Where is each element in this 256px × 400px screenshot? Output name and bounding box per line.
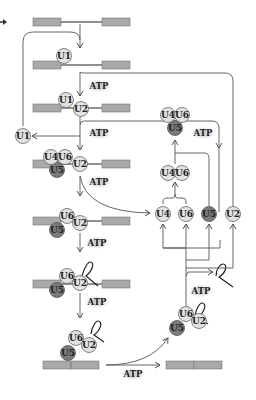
u6-snrnp: U6 (179, 207, 194, 222)
svg-text:U6: U6 (60, 211, 74, 221)
u2-snrnp: U2 (73, 216, 88, 231)
svg-text:U4: U4 (161, 110, 175, 120)
b-complex: U5 U4 U6 U2 (33, 150, 130, 178)
free-snrnps: U4 U6 U5 U2 (156, 207, 241, 222)
svg-text:U6: U6 (58, 152, 72, 162)
svg-text:U5: U5 (61, 348, 75, 358)
svg-text:U5: U5 (50, 165, 64, 175)
svg-text:ATP: ATP (123, 369, 143, 379)
svg-text:ATP: ATP (193, 128, 213, 138)
svg-text:U5: U5 (168, 123, 182, 133)
u2-snrnp: U2 (73, 157, 88, 172)
e-complex: U1 (33, 49, 130, 70)
a-complex: U1 U2 (33, 93, 130, 117)
u1-released: U1 (16, 129, 31, 144)
u5-snrnp: U5 (50, 283, 65, 298)
svg-text:ATP: ATP (191, 286, 211, 296)
u1-snrnp: U1 (59, 93, 74, 108)
released-complex: U5 U6 U2 (170, 303, 209, 336)
u4-snrnp: U4 (161, 108, 176, 123)
u5-snrnp: U5 (170, 321, 185, 336)
atp-1: ATP (85, 79, 113, 93)
u2-snrnp: U2 (82, 338, 97, 353)
svg-text:U2: U2 (192, 316, 206, 326)
svg-text:U2: U2 (226, 209, 240, 219)
atp-7: ATP (187, 284, 215, 298)
svg-text:U5: U5 (170, 323, 184, 333)
u5-snrnp: U5 (168, 121, 183, 136)
pre-mrna (33, 18, 130, 26)
free-lariat-intron (216, 264, 233, 287)
u6-snrnp: U6 (175, 108, 190, 123)
c-complex: U5 U6 U2 (33, 262, 130, 298)
svg-text:ATP: ATP (87, 297, 107, 307)
u4-snrnp: U4 (44, 150, 59, 165)
svg-text:U2: U2 (74, 104, 88, 114)
svg-text:U6: U6 (175, 110, 189, 120)
u2-snrnp: U2 (192, 314, 207, 329)
svg-text:U1: U1 (59, 95, 73, 105)
svg-text:U1: U1 (57, 51, 71, 61)
svg-text:U6: U6 (69, 333, 83, 343)
svg-text:ATP: ATP (89, 81, 109, 91)
spliceosome-diagram: U1 ATP U1 U2 U1 ATP (0, 0, 256, 400)
u2-snrnp: U2 (73, 276, 88, 291)
svg-text:U5: U5 (50, 225, 64, 235)
svg-text:ATP: ATP (89, 128, 109, 138)
atp-4: ATP (83, 236, 111, 250)
atp-3: ATP (85, 175, 113, 189)
svg-text:U5: U5 (50, 285, 64, 295)
u5-snrnp: U5 (61, 346, 76, 361)
svg-text:U6: U6 (60, 271, 74, 281)
svg-text:U4: U4 (161, 168, 175, 178)
spliced-mrna (166, 361, 222, 369)
svg-text:ATP: ATP (87, 238, 107, 248)
activated-b-complex: U5 U6 U2 (33, 209, 130, 238)
svg-text:U1: U1 (16, 131, 30, 141)
u5-snrnp: U5 (202, 207, 217, 222)
entry-arrow (0, 19, 7, 25)
u2-snrnp: U2 (226, 207, 241, 222)
atp-6: ATP (119, 367, 147, 381)
atp-5: ATP (83, 295, 111, 309)
svg-text:U4: U4 (44, 152, 58, 162)
svg-text:U2: U2 (73, 159, 87, 169)
svg-text:U2: U2 (73, 278, 87, 288)
svg-text:U2: U2 (82, 340, 96, 350)
svg-text:U6: U6 (179, 209, 193, 219)
post-splicing-complex: U5 U6 U2 (43, 321, 104, 369)
u4-snrnp: U4 (156, 207, 171, 222)
atp-2: ATP (85, 126, 113, 140)
u5-snrnp: U5 (50, 223, 65, 238)
svg-text:U6: U6 (179, 309, 193, 319)
u6-snrnp: U6 (175, 166, 190, 181)
svg-text:U2: U2 (73, 218, 87, 228)
u2-snrnp: U2 (74, 102, 89, 117)
u4-snrnp: U4 (161, 166, 176, 181)
u4-u6-u5-tri-snrnp: U5 U4 U6 (161, 108, 190, 136)
svg-text:ATP: ATP (89, 177, 109, 187)
atp-8: ATP (189, 126, 217, 140)
svg-text:U4: U4 (156, 209, 170, 219)
svg-text:U5: U5 (202, 209, 216, 219)
svg-text:U6: U6 (175, 168, 189, 178)
u4-u6-di-snrnp: U4 U6 (161, 166, 190, 181)
u6-snrnp: U6 (58, 150, 73, 165)
u1-snrnp: U1 (57, 49, 72, 64)
